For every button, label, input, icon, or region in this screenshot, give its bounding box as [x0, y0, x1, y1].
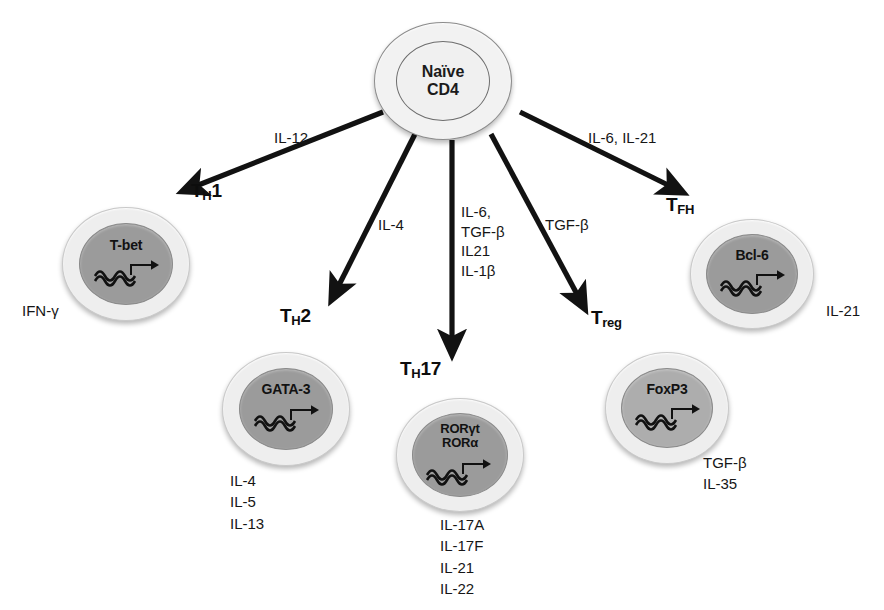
differentiation-diagram: Naïve CD4 TH1 IL-12 T-bet IFN-γ TH2 IL-4…: [0, 0, 884, 610]
treg-sub: reg: [602, 315, 621, 330]
subset-label-th17: TH17: [400, 358, 441, 380]
th1-tail: 1: [211, 180, 221, 201]
th17-sub: H: [411, 366, 420, 381]
subset-label-tfh: TFH: [666, 194, 694, 216]
naive-cd4-cell: Naïve CD4: [374, 22, 512, 140]
th17-cytokine-item: IL-17F: [440, 535, 484, 556]
th17-cytokine-item: IL-17A: [440, 514, 484, 535]
naive-cd4-nucleus: Naïve CD4: [396, 41, 490, 121]
th1-cell: T-bet: [62, 207, 190, 321]
th1-transcription-factor: T-bet: [110, 238, 142, 253]
tfh-dna-icon: [715, 268, 789, 298]
treg-cytokine-item: TGF-β: [703, 452, 747, 473]
th1-cytokine-item: IFN-γ: [22, 300, 59, 321]
th2-cytokine-item: IL-13: [230, 513, 264, 534]
subset-label-treg: Treg: [591, 307, 622, 329]
th17-transcription-factor: RORα: [442, 436, 478, 450]
th17-inducer-item: TGF-β: [461, 222, 505, 242]
arrow-to-tfh: [520, 112, 670, 186]
arrow-label-tfh: IL-6, IL-21: [588, 128, 656, 148]
th17-transcription-factor: RORγt: [440, 422, 479, 436]
arrow-label-th2: IL-4: [378, 215, 404, 235]
treg-t: T: [591, 307, 602, 328]
tfh-sub: FH: [677, 202, 694, 217]
th1-t: T: [191, 180, 202, 201]
tfh-cell: Bcl-6: [690, 219, 814, 329]
arrow-label-th17: IL-6, TGF-β IL21 IL-1β: [461, 202, 505, 280]
arrow-to-th1: [196, 112, 383, 186]
th17-dna-icon: [423, 458, 497, 488]
treg-effector-cytokines: TGF-β IL-35: [703, 452, 747, 495]
arrow-to-th2: [338, 134, 415, 287]
tfh-t: T: [666, 194, 677, 215]
naive-cd4-label-line1: Naïve: [422, 63, 465, 81]
treg-cell: FoxP3: [605, 352, 729, 464]
th17-tail: 17: [420, 358, 441, 379]
th2-dna-icon: [249, 403, 323, 433]
treg-transcription-factor: FoxP3: [646, 382, 687, 397]
th2-effector-cytokines: IL-4 IL-5 IL-13: [230, 470, 264, 534]
th17-nucleus: RORγt RORα: [412, 413, 508, 497]
th1-nucleus: T-bet: [79, 223, 173, 305]
tfh-transcription-factor: Bcl-6: [735, 248, 768, 263]
tfh-cytokine-item: IL-21: [826, 300, 860, 321]
th17-t: T: [400, 358, 411, 379]
caption-fragment: [0, 596, 884, 610]
th2-cell: GATA-3: [222, 352, 350, 466]
th2-cytokine-item: IL-4: [230, 470, 264, 491]
arrow-label-th1: IL-12: [274, 128, 308, 148]
th1-sub: H: [202, 188, 211, 203]
th2-cytokine-item: IL-5: [230, 491, 264, 512]
th1-dna-icon: [89, 258, 163, 288]
naive-cd4-label-line2: CD4: [427, 81, 459, 99]
th17-effector-cytokines: IL-17A IL-17F IL-21 IL-22: [440, 514, 484, 599]
th2-nucleus: GATA-3: [239, 368, 333, 450]
th2-t: T: [280, 305, 291, 326]
th17-inducer-item: IL-1β: [461, 261, 505, 281]
th2-tail: 2: [300, 305, 310, 326]
th17-inducer-item: IL-6,: [461, 202, 505, 222]
treg-cytokine-item: IL-35: [703, 473, 747, 494]
tfh-effector-cytokines: IL-21: [826, 300, 860, 321]
tfh-nucleus: Bcl-6: [706, 234, 798, 314]
th2-transcription-factor: GATA-3: [262, 382, 311, 397]
subset-label-th1: TH1: [191, 180, 222, 202]
arrow-label-treg: TGF-β: [545, 215, 589, 235]
subset-label-th2: TH2: [280, 305, 311, 327]
th17-cytokine-item: IL-21: [440, 557, 484, 578]
th2-sub: H: [291, 313, 300, 328]
th1-effector-cytokines: IFN-γ: [22, 300, 59, 321]
treg-dna-icon: [630, 402, 704, 432]
treg-nucleus: FoxP3: [621, 368, 713, 448]
th17-cell: RORγt RORα: [396, 398, 524, 512]
th17-inducer-item: IL21: [461, 241, 505, 261]
